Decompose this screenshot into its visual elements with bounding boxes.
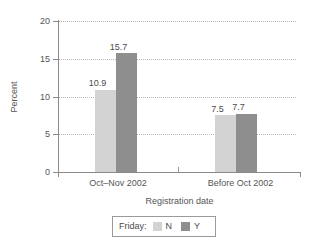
category-label-2: Before Oct 2002 xyxy=(183,178,298,188)
bar-group1-series-n xyxy=(95,90,116,172)
y-axis-title: Percent xyxy=(10,62,19,132)
y-tick-mark-0 xyxy=(53,172,58,173)
value-label-group1-n: 10.9 xyxy=(80,79,115,88)
y-tick-label-5: 5 xyxy=(26,130,50,139)
value-label-group1-y: 15.7 xyxy=(101,43,136,52)
grouped-bar-chart: 20 15 10 5 0 Percent Registration date 1… xyxy=(0,0,322,250)
plot-area xyxy=(58,21,300,172)
y-tick-label-0: 0 xyxy=(26,168,50,177)
y-tick-label-20: 20 xyxy=(26,17,50,26)
legend-swatch-y-icon xyxy=(181,222,190,231)
legend: Friday: N Y xyxy=(112,216,216,237)
legend-item-n: N xyxy=(153,222,173,231)
legend-title: Friday: xyxy=(119,222,147,231)
x-axis-tick-right xyxy=(300,172,301,177)
bar-group2-series-n xyxy=(215,115,236,172)
x-axis-title: Registration date xyxy=(58,196,301,206)
value-label-group2-y: 7.7 xyxy=(221,103,256,112)
category-label-1: Oct–Nov 2002 xyxy=(63,178,173,188)
y-tick-label-10: 10 xyxy=(26,93,50,102)
x-axis-line xyxy=(58,172,301,173)
legend-label-y: Y xyxy=(194,222,200,231)
y-tick-label-15: 15 xyxy=(26,55,50,64)
bar-group2-series-y xyxy=(236,114,257,172)
bar-group1-series-y xyxy=(116,53,137,172)
legend-swatch-n-icon xyxy=(153,222,162,231)
legend-item-y: Y xyxy=(181,222,200,231)
x-axis-tick-left xyxy=(58,172,59,177)
legend-label-n: N xyxy=(166,222,173,231)
